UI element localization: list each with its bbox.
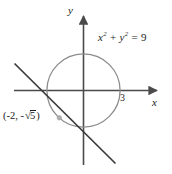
radical-sign: √5	[24, 110, 36, 122]
point-label-suffix: )	[36, 110, 40, 121]
y-axis-label: y	[68, 5, 73, 16]
radicand: 5	[30, 110, 36, 122]
x-axis-label: x	[152, 97, 157, 108]
equation-annotation: x2 + y2 = 9	[98, 31, 147, 43]
graph-canvas	[0, 0, 172, 174]
point-coordinate-label: (-2, -√5)	[3, 110, 40, 122]
equation-operator-plus: +	[107, 31, 120, 43]
point-label-prefix: (-2, -	[3, 110, 24, 121]
point-marker	[57, 116, 61, 120]
math-figure: y x x2 + y2 = 9 3 (-2, -√5)	[0, 0, 172, 174]
equation-equals-value: = 9	[128, 31, 146, 43]
x-tick-label-3: 3	[120, 93, 125, 103]
